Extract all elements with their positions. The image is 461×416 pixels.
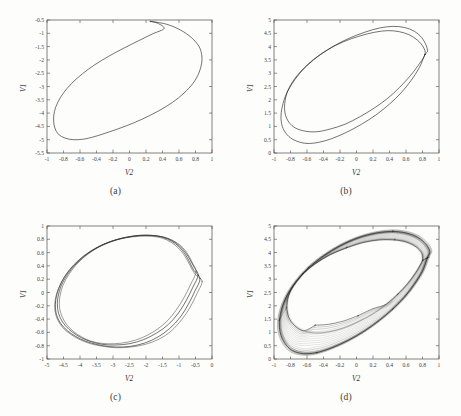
svg-text:-3: -3: [39, 84, 44, 90]
panel-c-xticklabels: -5 -4.5 -4 -3.5 -3 -2.5 -2 -1.5 -1 -0.5 …: [45, 362, 214, 368]
svg-text:0: 0: [211, 362, 214, 368]
svg-text:-1: -1: [39, 30, 44, 36]
svg-text:0.8: 0.8: [419, 156, 426, 162]
svg-text:1: 1: [268, 123, 271, 129]
panel-d: -1 -0.8 -0.6 -0.4 -0.2 0 0.2 0.4 0.6 0.8…: [231, 208, 461, 416]
svg-text:3.5: 3.5: [264, 263, 271, 269]
svg-text:-0.8: -0.8: [286, 362, 295, 368]
svg-text:0.4: 0.4: [37, 263, 44, 269]
svg-text:0.2: 0.2: [37, 276, 44, 282]
svg-text:2: 2: [268, 97, 271, 103]
panel-c-orbits: [55, 235, 202, 348]
svg-text:-2.5: -2.5: [35, 70, 44, 76]
svg-text:0: 0: [355, 156, 358, 162]
panel-b-ylabel: V1: [246, 84, 255, 92]
svg-text:-1: -1: [39, 356, 44, 362]
svg-text:5: 5: [268, 223, 271, 229]
orbit-trace: [286, 239, 423, 332]
svg-text:-4: -4: [78, 362, 83, 368]
panel-b: -1 -0.8 -0.6 -0.4 -0.2 0 0.2 0.4 0.6 0.8…: [231, 0, 461, 208]
panel-b-xticklabels: -1 -0.8 -0.6 -0.4 -0.2 0 0.2 0.4 0.6 0.8…: [272, 156, 441, 162]
panel-c-ylabel: V1: [19, 290, 28, 298]
svg-text:-3: -3: [111, 362, 116, 368]
panel-d-xticklabels: -1 -0.8 -0.6 -0.4 -0.2 0 0.2 0.4 0.6 0.8…: [272, 362, 441, 368]
svg-text:-4.5: -4.5: [59, 362, 68, 368]
svg-text:1: 1: [438, 362, 441, 368]
svg-text:-5: -5: [39, 137, 44, 143]
panel-b-frame: [274, 20, 439, 153]
panel-c-plot: -5 -4.5 -4 -3.5 -3 -2.5 -2 -1.5 -1 -0.5 …: [0, 208, 231, 416]
svg-text:1: 1: [438, 156, 441, 162]
panel-a-ylabel: V1: [19, 84, 28, 92]
panel-d-orbits: [277, 230, 431, 355]
svg-text:2.5: 2.5: [264, 290, 271, 296]
svg-text:1: 1: [211, 156, 214, 162]
svg-text:-0.2: -0.2: [336, 362, 345, 368]
panel-c-caption: (c): [0, 392, 231, 402]
panel-b-yticklabels: 5 4.5 4 3.5 3 2.5 2 1.5 1 0.5 0: [264, 17, 271, 156]
svg-text:-2: -2: [144, 362, 149, 368]
svg-text:0.2: 0.2: [370, 362, 377, 368]
panel-a-axes: -1 -0.8 -0.6 -0.4 -0.2 0 0.2 0.4 0.6 0.8…: [19, 17, 214, 177]
phase-portrait-figure: -1 -0.8 -0.6 -0.4 -0.2 0 0.2 0.4 0.6 0.8…: [0, 0, 461, 416]
orbit-trace: [287, 240, 423, 331]
svg-text:-0.2: -0.2: [109, 156, 118, 162]
svg-text:0.5: 0.5: [264, 137, 271, 143]
svg-text:-1.5: -1.5: [158, 362, 167, 368]
panel-a-yticks: [47, 20, 212, 153]
svg-text:-1: -1: [272, 156, 277, 162]
panel-b-orbits: [281, 26, 428, 143]
svg-text:-0.8: -0.8: [35, 343, 44, 349]
svg-text:0.6: 0.6: [403, 156, 410, 162]
panel-a-xticks: [47, 20, 212, 153]
svg-text:4: 4: [268, 44, 271, 50]
svg-text:3: 3: [268, 276, 271, 282]
panel-c: -5 -4.5 -4 -3.5 -3 -2.5 -2 -1.5 -1 -0.5 …: [0, 208, 231, 416]
svg-text:1.5: 1.5: [264, 110, 271, 116]
svg-text:2: 2: [268, 303, 271, 309]
svg-text:0.8: 0.8: [37, 236, 44, 242]
orbit-trace: [54, 21, 202, 139]
svg-text:0.8: 0.8: [419, 362, 426, 368]
svg-text:-5: -5: [45, 362, 50, 368]
svg-text:0.2: 0.2: [370, 156, 377, 162]
panel-d-yticklabels: 5 4.5 4 3.5 3 2.5 2 1.5 1 0.5 0: [264, 223, 271, 362]
panel-b-caption: (b): [231, 186, 461, 196]
svg-text:-0.8: -0.8: [286, 156, 295, 162]
panel-d-caption: (d): [231, 392, 461, 402]
svg-text:-4.5: -4.5: [35, 123, 44, 129]
panel-c-xticks: [47, 226, 212, 359]
orbit-trace: [286, 239, 424, 334]
orbit-trace: [285, 238, 424, 336]
svg-text:-3.5: -3.5: [92, 362, 101, 368]
svg-text:-0.8: -0.8: [59, 156, 68, 162]
orbit-trace: [59, 235, 196, 344]
panel-d-plot: -1 -0.8 -0.6 -0.4 -0.2 0 0.2 0.4 0.6 0.8…: [231, 208, 461, 416]
panel-a-xticklabels: -1 -0.8 -0.6 -0.4 -0.2 0 0.2 0.4 0.6 0.8…: [45, 156, 214, 162]
svg-text:-1: -1: [272, 362, 277, 368]
svg-text:-1: -1: [45, 156, 50, 162]
svg-text:-0.5: -0.5: [191, 362, 200, 368]
svg-text:-2: -2: [39, 57, 44, 63]
svg-text:-0.4: -0.4: [35, 316, 44, 322]
svg-text:0: 0: [355, 362, 358, 368]
svg-text:-4: -4: [39, 110, 44, 116]
svg-text:2.5: 2.5: [264, 84, 271, 90]
panel-d-ylabel: V1: [246, 290, 255, 298]
svg-text:0.4: 0.4: [159, 156, 166, 162]
svg-text:5: 5: [268, 17, 271, 23]
svg-text:1: 1: [41, 223, 44, 229]
panel-a: -1 -0.8 -0.6 -0.4 -0.2 0 0.2 0.4 0.6 0.8…: [0, 0, 231, 208]
svg-text:-0.4: -0.4: [319, 362, 328, 368]
panel-a-xlabel: V2: [125, 168, 134, 177]
svg-text:-0.6: -0.6: [303, 362, 312, 368]
svg-text:1.5: 1.5: [264, 316, 271, 322]
svg-text:-0.6: -0.6: [76, 156, 85, 162]
svg-text:-2.5: -2.5: [125, 362, 134, 368]
orbit-trace: [55, 236, 202, 348]
svg-text:3.5: 3.5: [264, 57, 271, 63]
svg-text:4.5: 4.5: [264, 30, 271, 36]
panel-a-yticklabels: -0.5 -1 -1.5 -2 -2.5 -3 -3.5 -4 -4.5 -5 …: [35, 17, 44, 156]
panel-c-yticklabels: 1 0.8 0.6 0.4 0.2 0 -0.2 -0.4 -0.6 -0.8 …: [35, 223, 44, 362]
svg-text:-0.6: -0.6: [35, 329, 44, 335]
